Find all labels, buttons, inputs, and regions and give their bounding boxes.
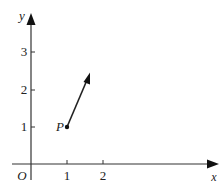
- y-axis-arrow-icon: [27, 13, 36, 25]
- y-axis-label: y: [17, 8, 25, 23]
- y-tick-label-1: 1: [21, 119, 28, 134]
- coordinate-diagram: 1 2 1 2 3 O x y P: [0, 0, 222, 188]
- vector-arrowhead-icon: [84, 73, 91, 85]
- origin-label: O: [17, 168, 27, 183]
- point-p: [65, 125, 69, 129]
- x-tick-label-2: 2: [100, 168, 107, 183]
- x-axis-arrow-icon: [207, 160, 219, 169]
- vector-line: [67, 80, 87, 127]
- y-tick-label-3: 3: [21, 44, 28, 59]
- y-tick-label-2: 2: [21, 82, 28, 97]
- x-tick-label-1: 1: [64, 168, 71, 183]
- x-axis-label: x: [210, 170, 217, 184]
- point-p-label: P: [55, 119, 64, 134]
